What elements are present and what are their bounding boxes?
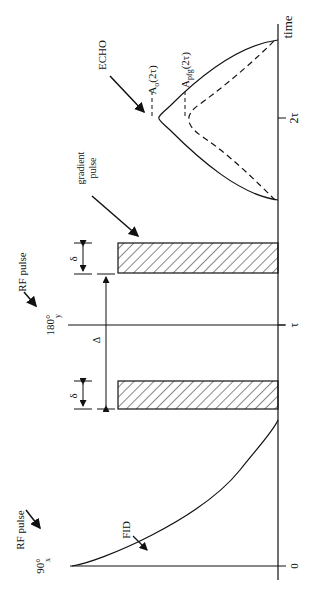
- gradient-pulse-2: [118, 243, 278, 273]
- rf-pulse-90-caption: RF pulse: [14, 510, 26, 550]
- echo-label: ECHO: [96, 40, 108, 70]
- tick-label-2tau: 2τ: [287, 112, 301, 123]
- tick-label-tau: τ: [287, 322, 301, 327]
- rf-pulse-180-sub: y: [53, 314, 62, 318]
- delta-small-label-1: δ: [67, 393, 79, 398]
- pfg-diagram: 0 τ 2τ time 90° x RF pulse FID δ δ: [0, 0, 313, 594]
- gradient-arrow: [92, 196, 138, 236]
- apfg-label: Apfg(2τ): [179, 52, 194, 88]
- a0-label: Ao(2τ): [146, 65, 161, 95]
- tick-label-0: 0: [288, 563, 300, 569]
- delta-small-label-2: δ: [67, 256, 79, 261]
- rf-pulse-90-arrow: [26, 510, 40, 528]
- rf-pulse-180-caption: RF pulse: [16, 252, 28, 292]
- echo-curve-a0: [159, 40, 278, 200]
- rf-pulse-90-sub: x: [43, 558, 52, 562]
- echo-curve-apfg: [189, 40, 275, 200]
- rf-pulse-180-arrow: [24, 292, 36, 306]
- axis-label-time: time: [280, 15, 295, 38]
- echo-arrow: [110, 76, 144, 112]
- gradient-caption-line1: gradient: [75, 151, 86, 184]
- fid-curve: [72, 420, 278, 566]
- gradient-pulse-1: [118, 381, 278, 409]
- fid-label: FID: [120, 521, 132, 539]
- gradient-caption-line2: pulse: [87, 157, 98, 179]
- delta-big-label: Δ: [91, 336, 102, 343]
